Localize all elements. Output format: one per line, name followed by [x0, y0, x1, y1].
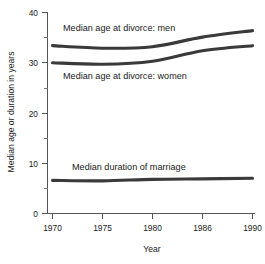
y-tick-label-10: 10 — [29, 159, 39, 169]
series-line-duration — [53, 178, 253, 181]
x-axis-title: Year — [143, 244, 161, 254]
y-axis-ticks — [42, 13, 48, 214]
x-tick-label-1970: 1970 — [43, 223, 62, 233]
x-tick-label-1980: 1980 — [143, 223, 162, 233]
axes-group — [48, 12, 256, 214]
line-chart: 40 30 20 10 0 1970 1975 1980 1986 1990 — [0, 0, 265, 264]
series-label-duration: Median duration of marriage — [72, 162, 186, 172]
x-tick-label-1975: 1975 — [93, 223, 112, 233]
y-tick-label-20: 20 — [29, 109, 39, 119]
data-series-group — [53, 31, 253, 181]
y-axis-title: Median age or duration in years — [6, 52, 16, 173]
y-tick-label-30: 30 — [29, 58, 39, 68]
x-axis-ticks — [53, 214, 253, 220]
y-tick-label-40: 40 — [29, 8, 39, 18]
x-axis-tick-labels: 1970 1975 1980 1986 1990 — [43, 223, 262, 233]
x-tick-label-1990: 1990 — [243, 223, 262, 233]
chart-plot-area: 40 30 20 10 0 1970 1975 1980 1986 1990 — [0, 0, 265, 264]
series-line-men — [53, 31, 253, 49]
series-label-men: Median age at divorce: men — [63, 23, 175, 33]
x-tick-label-1986: 1986 — [193, 223, 212, 233]
y-tick-label-0: 0 — [33, 209, 38, 219]
y-axis-tick-labels: 40 30 20 10 0 — [29, 8, 39, 219]
series-label-women: Median age at divorce: women — [63, 71, 187, 81]
